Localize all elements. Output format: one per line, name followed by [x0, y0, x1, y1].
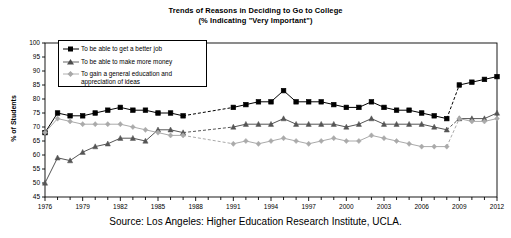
data-point-marker	[143, 108, 148, 113]
chart-plot-area: 4550556065707580859095100197619791982198…	[0, 0, 511, 238]
triangle-marker-icon	[63, 58, 79, 66]
data-point-marker	[68, 119, 73, 124]
data-point-marker	[344, 105, 349, 110]
data-point-marker	[93, 111, 98, 116]
data-point-marker	[369, 100, 374, 105]
data-point-marker	[168, 133, 173, 138]
data-point-marker	[407, 141, 412, 146]
data-point-marker	[407, 108, 412, 113]
legend-item-general-education: To gain a general education and apprecia…	[63, 70, 206, 85]
chart-page: Trends of Reasons in Deciding to Go to C…	[0, 0, 511, 238]
data-point-marker	[281, 88, 286, 93]
data-point-marker	[244, 102, 249, 107]
data-point-marker	[231, 105, 236, 110]
x-tick-label: 2012	[490, 203, 505, 210]
data-point-marker	[470, 80, 475, 85]
legend-item-more-money: To be able to make more money	[63, 58, 172, 66]
diamond-marker-icon	[63, 70, 79, 78]
data-point-marker	[369, 133, 374, 138]
legend-label-more-money: To be able to make more money	[79, 58, 172, 66]
data-point-marker	[55, 155, 60, 160]
data-point-marker	[356, 138, 361, 143]
y-tick-label: 80	[33, 95, 41, 102]
source-note: Source: Los Angeles: Higher Education Re…	[0, 216, 511, 227]
y-tick-label: 50	[33, 179, 41, 186]
data-point-marker	[394, 138, 399, 143]
x-tick-label: 1985	[151, 203, 166, 210]
data-point-marker	[269, 138, 274, 143]
x-tick-label: 1997	[301, 203, 316, 210]
data-point-marker	[432, 114, 437, 119]
data-point-marker	[131, 108, 136, 113]
data-point-marker	[444, 144, 449, 149]
data-point-marker	[281, 116, 286, 121]
data-point-marker	[256, 141, 261, 146]
data-point-marker	[130, 124, 135, 129]
square-marker-icon	[63, 45, 79, 53]
data-point-marker	[369, 116, 374, 121]
data-point-marker	[494, 110, 499, 115]
data-point-marker	[181, 114, 186, 119]
data-point-marker	[281, 136, 286, 141]
data-point-marker	[444, 116, 449, 121]
data-point-marker	[419, 111, 424, 116]
x-tick-label: 1976	[38, 203, 53, 210]
data-point-marker	[118, 105, 123, 110]
data-point-marker	[243, 138, 248, 143]
x-tick-label: 1994	[264, 203, 279, 210]
data-point-marker	[331, 102, 336, 107]
legend-label-general-education: To gain a general education and apprecia…	[79, 70, 206, 85]
x-tick-label: 2003	[377, 203, 392, 210]
x-tick-label: 1982	[113, 203, 128, 210]
data-point-marker	[331, 136, 336, 141]
data-point-marker	[482, 77, 487, 82]
legend-label-better-job: To be able to get a better job	[79, 45, 162, 53]
data-point-marker	[68, 114, 73, 119]
data-point-marker	[357, 105, 362, 110]
x-tick-label: 1979	[75, 203, 90, 210]
y-tick-label: 60	[33, 151, 41, 158]
data-point-marker	[105, 108, 110, 113]
data-point-marker	[80, 114, 85, 119]
data-point-marker	[105, 122, 110, 127]
data-point-marker	[168, 111, 173, 116]
x-tick-label: 2006	[414, 203, 429, 210]
data-point-marker	[432, 144, 437, 149]
data-point-marker	[495, 116, 500, 121]
y-tick-label: 75	[33, 109, 41, 116]
data-point-marker	[495, 74, 500, 79]
data-point-marker	[80, 122, 85, 127]
data-point-marker	[457, 83, 462, 88]
y-tick-label: 90	[33, 67, 41, 74]
data-point-marker	[319, 100, 324, 105]
data-point-marker	[319, 138, 324, 143]
y-tick-label: 95	[33, 53, 41, 60]
x-tick-label: 2009	[452, 203, 467, 210]
data-point-marker	[382, 136, 387, 141]
data-point-marker	[93, 122, 98, 127]
data-point-marker	[306, 100, 311, 105]
data-point-marker	[294, 138, 299, 143]
data-point-marker	[306, 141, 311, 146]
data-point-marker	[382, 105, 387, 110]
y-tick-label: 70	[33, 123, 41, 130]
data-point-marker	[256, 100, 261, 105]
y-tick-label: 45	[33, 193, 41, 200]
data-point-marker	[231, 141, 236, 146]
data-point-marker	[143, 127, 148, 132]
x-tick-label: 2000	[339, 203, 354, 210]
x-tick-label: 1988	[188, 203, 203, 210]
data-point-marker	[394, 108, 399, 113]
data-point-marker	[55, 111, 60, 116]
x-tick-label: 1991	[226, 203, 241, 210]
legend-item-better-job: To be able to get a better job	[63, 45, 162, 53]
data-point-marker	[419, 144, 424, 149]
data-point-marker	[294, 100, 299, 105]
data-point-marker	[344, 138, 349, 143]
y-tick-label: 55	[33, 165, 41, 172]
data-point-marker	[269, 100, 274, 105]
y-tick-label: 85	[33, 81, 41, 88]
y-tick-label: 100	[29, 39, 40, 46]
data-point-marker	[156, 111, 161, 116]
data-point-marker	[118, 122, 123, 127]
